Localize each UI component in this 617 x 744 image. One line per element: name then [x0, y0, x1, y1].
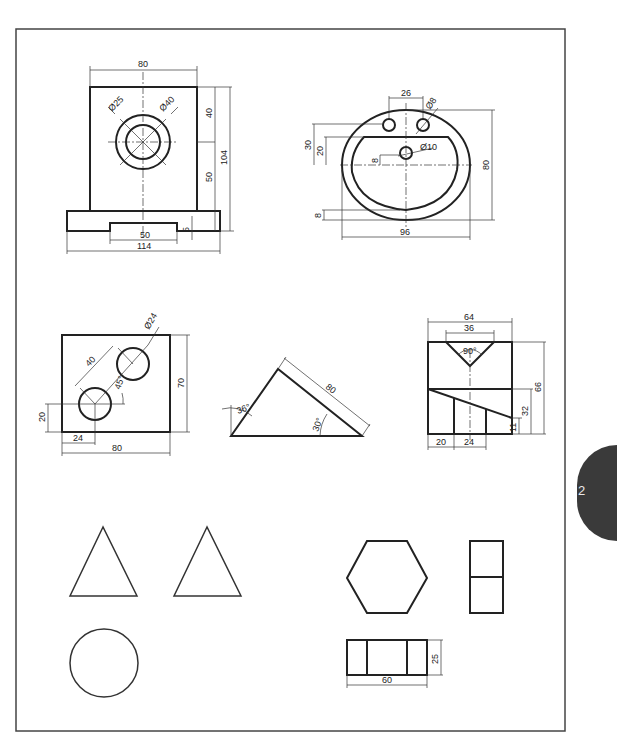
dim-tri-30: 30° — [310, 416, 324, 433]
dim-basin-d10: Ø10 — [420, 142, 437, 152]
dim-basin-8-center: 8 — [370, 158, 380, 163]
dim-plate-20: 20 — [37, 412, 47, 422]
dim-bracket-80: 80 — [138, 59, 148, 69]
circle-view — [70, 629, 138, 697]
dim-hex-60: 60 — [382, 675, 392, 685]
dim-vblock-20: 20 — [436, 437, 446, 447]
washbasin-drawing: 26 Ø8 Ø10 8 30 20 80 8 96 — [303, 88, 495, 240]
dim-vblock-90: 90° — [463, 346, 477, 356]
hex-side-view — [470, 541, 503, 613]
plate-holes-drawing: Ø24 40 45° 70 20 24 80 — [37, 311, 190, 456]
dim-plate-80: 80 — [112, 443, 122, 453]
dim-vblock-66: 66 — [533, 382, 543, 392]
dim-bracket-5: 5 — [181, 227, 191, 232]
dim-vblock-36: 36 — [464, 323, 474, 333]
dim-bracket-slot-50: 50 — [140, 230, 150, 240]
dim-bracket-114: 114 — [137, 241, 151, 251]
dim-basin-20: 20 — [315, 146, 325, 156]
dim-plate-d24: Ø24 — [142, 311, 159, 331]
dim-bracket-d40: Ø40 — [157, 94, 176, 113]
dim-vblock-32: 32 — [520, 406, 530, 416]
bracket-drawing: 80 Ø25 Ø40 40 50 104 50 5 114 — [67, 59, 234, 254]
dim-plate-24: 24 — [73, 433, 83, 443]
dim-bracket-104: 104 — [219, 150, 229, 165]
dim-basin-8-bottom: 8 — [313, 213, 323, 218]
dim-vblock-24: 24 — [464, 437, 474, 447]
dim-basin-d8: Ø8 — [423, 96, 438, 112]
dim-bracket-d25: Ø25 — [106, 94, 125, 113]
dim-basin-30: 30 — [303, 140, 313, 150]
dim-hex-25: 25 — [430, 654, 440, 664]
dim-vblock-11: 11 — [508, 423, 518, 432]
vblock-drawing: 64 36 90° 66 32 11 20 24 — [428, 312, 546, 450]
dim-plate-70: 70 — [176, 378, 186, 388]
triangle-view-2 — [174, 527, 241, 596]
dim-tri-80: 80 — [324, 382, 338, 396]
dim-bracket-40: 40 — [204, 108, 214, 118]
dim-bracket-50: 50 — [204, 172, 214, 182]
dim-vblock-64: 64 — [464, 312, 474, 322]
dim-basin-26: 26 — [401, 88, 411, 98]
dim-basin-80: 80 — [481, 160, 491, 170]
dim-basin-96: 96 — [400, 227, 410, 237]
hexagon-view — [347, 541, 427, 613]
triangle-drawing: 36° 80 30° — [222, 357, 370, 436]
page-tab-number: 2 — [578, 483, 585, 498]
hex-front-view: 25 60 — [347, 640, 443, 688]
dim-plate-40: 40 — [83, 354, 97, 368]
triangle-view-1 — [70, 527, 137, 596]
